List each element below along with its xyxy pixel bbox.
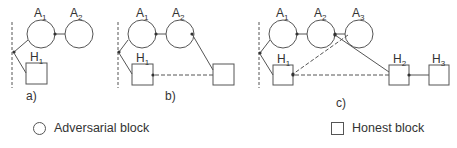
legend-honest-label: Honest block	[352, 121, 424, 135]
honest-block-h1	[26, 63, 47, 84]
svg-text:H1: H1	[136, 51, 150, 67]
panel-label-b: b)	[165, 89, 176, 103]
adversarial-block-a3	[345, 20, 373, 48]
svg-text:A1: A1	[136, 6, 149, 22]
panel-a	[12, 20, 93, 88]
circle-icon	[33, 122, 46, 135]
svg-text:H3: H3	[432, 52, 446, 68]
panel-c	[259, 20, 449, 88]
panel-label-c: c)	[336, 96, 346, 110]
adversarial-block-a2	[307, 20, 335, 48]
svg-text:A3: A3	[352, 6, 365, 22]
honest-block-h1	[132, 64, 153, 85]
legend-adversarial: Adversarial block	[33, 121, 149, 135]
label-h1: H1	[30, 50, 44, 66]
adversarial-block-a1	[269, 20, 297, 48]
svg-text:H1: H1	[277, 52, 291, 68]
adversarial-block-a1	[27, 20, 55, 48]
svg-text:A2: A2	[314, 6, 327, 22]
label-a1: A1	[34, 6, 47, 22]
honest-block-h1	[273, 65, 293, 85]
adversarial-block-a2	[65, 20, 93, 48]
legend-honest: Honest block	[331, 121, 424, 135]
adversarial-block-a2	[166, 20, 194, 48]
panel-label-a: a)	[26, 89, 37, 103]
honest-block-h3	[429, 65, 449, 85]
svg-text:A1: A1	[276, 6, 289, 22]
svg-text:H2: H2	[393, 52, 407, 68]
honest-block-unlabeled	[213, 64, 234, 85]
square-icon	[331, 122, 344, 135]
svg-text:A2: A2	[172, 6, 185, 22]
honest-block-h2	[389, 65, 409, 85]
label-a2: A2	[70, 6, 83, 22]
adversarial-block-a1	[128, 20, 156, 48]
legend-adversarial-label: Adversarial block	[54, 121, 149, 135]
